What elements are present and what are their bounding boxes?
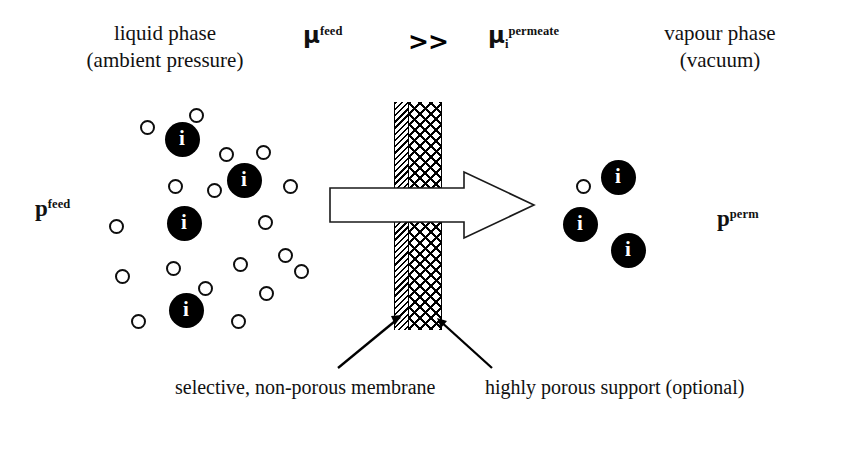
particle-label: i — [563, 213, 598, 234]
left-phase-header: liquid phase (ambient pressure) — [40, 20, 290, 74]
permeant-particle: i — [167, 206, 202, 241]
solvent-particle — [294, 264, 309, 279]
solvent-particle — [256, 145, 271, 160]
solvent-particle — [109, 219, 124, 234]
particle-label: i — [611, 239, 646, 260]
support-caption-line1: highly porous support — [485, 376, 661, 398]
permeate-pressure-label: pperm — [717, 206, 759, 232]
solvent-particle — [198, 281, 213, 296]
porous-support-layer — [409, 102, 442, 330]
permeant-particle: i — [563, 207, 598, 242]
permeant-particle: i — [169, 293, 204, 328]
diagram-canvas: liquid phase (ambient pressure) vapour p… — [0, 0, 842, 451]
solvent-particle — [278, 248, 293, 263]
solvent-particle — [283, 179, 298, 194]
solvent-particle — [115, 269, 130, 284]
left-phase-line1: liquid phase — [114, 21, 216, 45]
mu-symbol-permeate: μ — [488, 22, 505, 48]
right-phase-header: vapour phase (vacuum) — [605, 20, 835, 74]
membrane-caption: selective, non-porous membrane — [175, 375, 415, 401]
particle-label: i — [227, 169, 262, 190]
mu-permeate-subscript: i — [505, 37, 508, 51]
left-phase-line2: (ambient pressure) — [40, 47, 290, 74]
mu-symbol-feed: μ — [303, 22, 320, 48]
solvent-particle — [140, 120, 155, 135]
feed-chemical-potential: μfeed — [303, 22, 343, 49]
permeant-particle: i — [611, 233, 646, 268]
solvent-particle — [131, 314, 146, 329]
solvent-particle — [168, 179, 183, 194]
feed-pressure-label: pfeed — [35, 196, 70, 222]
p-symbol-permeate: p — [717, 206, 730, 231]
permeant-particle: i — [601, 160, 636, 195]
solvent-particle — [258, 215, 273, 230]
solvent-particle — [576, 179, 591, 194]
support-caption: highly porous support (optional) — [485, 375, 735, 401]
p-feed-superscript: feed — [48, 197, 71, 211]
permeate-chemical-potential: μipermeate — [488, 22, 559, 52]
permeant-particle: i — [165, 122, 200, 157]
particle-label: i — [165, 128, 200, 149]
support-leader-line — [437, 318, 492, 368]
solvent-particle — [233, 257, 248, 272]
solvent-particle — [189, 108, 204, 123]
solvent-particle — [207, 183, 222, 198]
selective-membrane-layer — [394, 102, 409, 330]
particle-label: i — [601, 166, 636, 187]
right-phase-line2: (vacuum) — [605, 47, 835, 74]
solvent-particle — [231, 314, 246, 329]
mu-permeate-superscript: permeate — [508, 24, 559, 38]
mu-feed-superscript: feed — [320, 24, 343, 38]
p-perm-superscript: perm — [730, 207, 759, 221]
membrane-stack — [394, 102, 442, 330]
particle-label: i — [169, 299, 204, 320]
permeant-particle: i — [227, 163, 262, 198]
solvent-particle — [219, 147, 234, 162]
solvent-particle — [259, 286, 274, 301]
membrane-caption-line1: selective, non-porous — [175, 376, 346, 398]
solvent-particle — [166, 261, 181, 276]
right-phase-line1: vapour phase — [664, 21, 775, 45]
membrane-leader-line — [338, 315, 402, 368]
support-caption-line2: (optional) — [666, 376, 745, 398]
much-greater-than-symbol: >> — [408, 27, 448, 56]
membrane-caption-line2: membrane — [351, 376, 435, 398]
particle-label: i — [167, 212, 202, 233]
p-symbol-feed: p — [35, 196, 48, 221]
